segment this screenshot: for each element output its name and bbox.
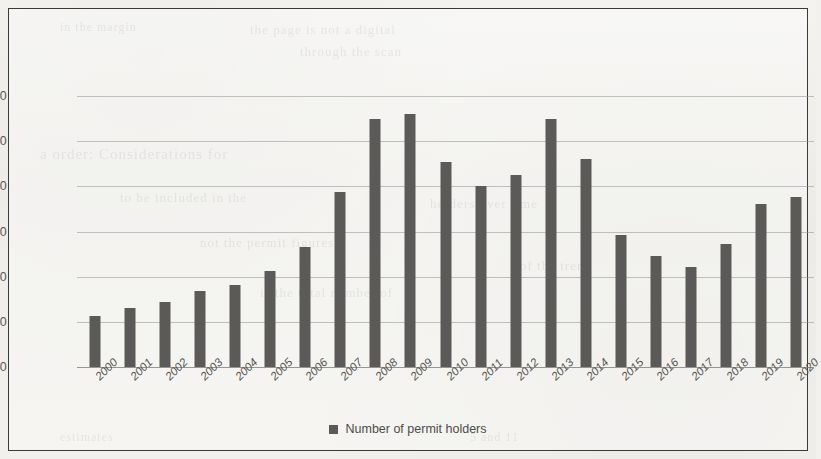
y-axis-tick-label: 20000 xyxy=(0,315,7,329)
bar xyxy=(756,204,767,367)
y-axis-tick-label: 80000 xyxy=(0,179,7,193)
bar-series: 2000200120022003200420052006200720082009… xyxy=(77,96,814,367)
bar xyxy=(721,244,732,367)
bar xyxy=(651,256,662,367)
bar-group: 2011 xyxy=(469,96,493,367)
y-axis-tick-label: 60000 xyxy=(0,225,7,239)
bar xyxy=(580,159,591,367)
bar-group: 2004 xyxy=(223,96,247,367)
bar-group: 2015 xyxy=(609,96,633,367)
bar xyxy=(405,114,416,367)
bar-group: 2005 xyxy=(258,96,282,367)
bar-group: 2012 xyxy=(504,96,528,367)
bar xyxy=(440,162,451,368)
bar xyxy=(370,119,381,367)
bar-group: 2018 xyxy=(714,96,738,367)
bar xyxy=(615,235,626,367)
bar xyxy=(89,316,100,367)
y-axis-tick-label: 40000 xyxy=(0,270,7,284)
bar-group: 2013 xyxy=(539,96,563,367)
bar xyxy=(335,192,346,367)
bar xyxy=(686,267,697,367)
bar xyxy=(475,186,486,367)
bar xyxy=(300,247,311,367)
bar-group: 2009 xyxy=(398,96,422,367)
bar-group: 2003 xyxy=(188,96,212,367)
legend-label: Number of permit holders xyxy=(345,422,486,436)
bar xyxy=(159,302,170,367)
bar xyxy=(791,197,802,368)
y-axis-tick-label: 100000 xyxy=(0,134,7,148)
bar-group: 2002 xyxy=(153,96,177,367)
bar-group: 2020 xyxy=(784,96,808,367)
bar xyxy=(194,291,205,367)
y-axis-tick-label: 120000 xyxy=(0,89,7,103)
legend-swatch-icon xyxy=(329,425,338,434)
bar xyxy=(545,119,556,367)
chart-frame: 120000100000800006000040000200000 200020… xyxy=(8,8,808,451)
bar xyxy=(229,285,240,367)
bar-group: 2001 xyxy=(118,96,142,367)
bar-group: 2000 xyxy=(83,96,107,367)
bar-group: 2014 xyxy=(574,96,598,367)
bar-group: 2016 xyxy=(644,96,668,367)
bar-group: 2017 xyxy=(679,96,703,367)
bar xyxy=(510,175,521,367)
bar-group: 2010 xyxy=(434,96,458,367)
bar-group: 2006 xyxy=(293,96,317,367)
y-axis-tick-label: 0 xyxy=(0,360,7,374)
bar xyxy=(265,271,276,367)
bar xyxy=(124,308,135,367)
chart-legend: Number of permit holders xyxy=(9,422,807,436)
bar-group: 2019 xyxy=(749,96,773,367)
bar-group: 2007 xyxy=(328,96,352,367)
bar-group: 2008 xyxy=(363,96,387,367)
plot-area: 120000100000800006000040000200000 200020… xyxy=(77,96,814,367)
